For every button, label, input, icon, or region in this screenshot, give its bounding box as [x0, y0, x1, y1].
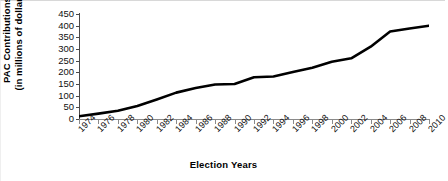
- plot-area: [79, 14, 429, 119]
- y-tick-label: 50: [46, 102, 74, 112]
- y-tick-label: 300: [46, 44, 74, 54]
- y-tick-label: 200: [46, 67, 74, 77]
- x-axis-title: Election Years: [1, 159, 446, 170]
- y-tick-label: 0: [46, 114, 74, 124]
- series-polyline: [79, 26, 429, 117]
- y-tick-label: 150: [46, 79, 74, 89]
- line-series-pac-contributions: [79, 14, 429, 119]
- y-tick-label: 450: [46, 9, 74, 19]
- y-tick-label: 100: [46, 91, 74, 101]
- y-tick-label: 250: [46, 56, 74, 66]
- y-tick-label: 400: [46, 21, 74, 31]
- y-tick-label: 350: [46, 32, 74, 42]
